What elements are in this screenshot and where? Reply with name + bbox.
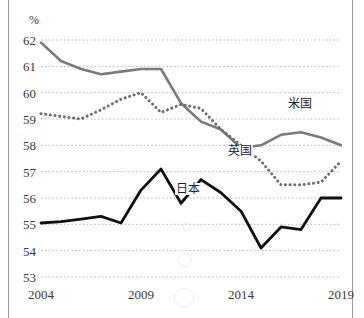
y-tick-label: 62 — [14, 34, 36, 47]
y-tick-label: 60 — [14, 87, 36, 100]
chart-figure: % 53545556575859606162 2004200920142019 … — [0, 0, 364, 318]
y-tick-label: 59 — [14, 113, 36, 126]
y-tick-label: 57 — [14, 166, 36, 179]
x-tick-label: 2004 — [18, 288, 64, 301]
y-tick-label: 56 — [14, 192, 36, 205]
series-line-0 — [41, 43, 341, 148]
x-tick-label: 2014 — [218, 288, 264, 301]
line-chart-plot — [0, 0, 364, 318]
series-label-0: 米国 — [287, 98, 313, 110]
y-axis-unit-label: % — [29, 14, 39, 26]
series-label-2: 日本 — [175, 183, 201, 195]
series-label-1: 英国 — [227, 145, 253, 157]
x-tick-label: 2019 — [318, 288, 364, 301]
gridlines — [41, 40, 341, 277]
y-tick-label: 58 — [14, 139, 36, 152]
series-line-2 — [41, 169, 341, 248]
x-tick-label: 2009 — [118, 288, 164, 301]
y-tick-label: 55 — [14, 218, 36, 231]
y-tick-label: 54 — [14, 245, 36, 258]
y-tick-label: 61 — [14, 60, 36, 73]
y-tick-label: 53 — [14, 271, 36, 284]
